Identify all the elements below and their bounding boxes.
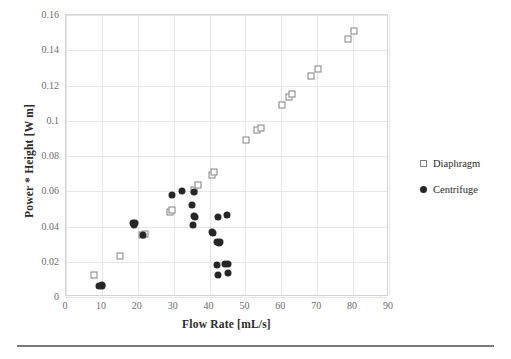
gridline-vertical [389,15,390,295]
x-tick-label: 90 [383,300,393,311]
data-point-diaphragm [308,73,315,80]
gridline-vertical [138,15,139,295]
x-tick-label: 80 [347,300,357,311]
data-point-centrifuge [217,239,224,246]
gridline-horizontal [66,86,387,87]
data-point-diaphragm [90,272,97,279]
data-point-centrifuge [224,270,231,277]
footer-divider [17,345,494,347]
data-point-diaphragm [314,66,321,73]
gridline-vertical [66,15,67,295]
gridline-vertical [245,15,246,295]
gridline-horizontal [66,156,387,157]
filled-circle-icon [420,186,432,193]
open-square-icon [420,160,432,167]
x-tick-label: 20 [132,300,142,311]
data-point-centrifuge [132,219,139,226]
gridline-vertical [317,15,318,295]
data-point-diaphragm [243,137,250,144]
x-axis-title: Flow Rate [mL/s] [65,318,388,330]
data-point-diaphragm [289,91,296,98]
plot-area [65,14,388,296]
scatter-chart-figure: 00.020.040.060.080.10.120.140.16 0102030… [0,0,511,359]
x-tick-label: 10 [96,300,106,311]
data-point-diaphragm [116,253,123,260]
data-point-centrifuge [210,230,217,237]
data-point-centrifuge [214,271,221,278]
x-tick-label: 0 [63,300,68,311]
data-point-diaphragm [345,36,352,43]
gridline-horizontal [66,15,387,16]
x-tick-label: 60 [275,300,285,311]
y-tick-label: 0.16 [0,9,59,20]
x-tick-label: 30 [168,300,178,311]
data-point-centrifuge [178,187,185,194]
y-tick-label: 0 [0,291,59,302]
gridline-vertical [353,15,354,295]
gridline-horizontal [66,227,387,228]
y-axis-title: Power * Height [W m] [23,46,35,276]
data-point-centrifuge [168,192,175,199]
data-point-diaphragm [279,101,286,108]
x-tick-label: 40 [204,300,214,311]
data-point-diaphragm [195,181,202,188]
data-point-diaphragm [257,124,264,131]
data-point-centrifuge [214,214,221,221]
gridline-vertical [102,15,103,295]
data-point-centrifuge [192,214,199,221]
gridline-horizontal [66,297,387,298]
data-point-centrifuge [223,212,230,219]
chart-legend: Diaphragm Centrifuge [420,158,480,210]
data-point-diaphragm [351,28,358,35]
gridline-vertical [174,15,175,295]
gridline-vertical [210,15,211,295]
data-point-centrifuge [190,188,197,195]
data-point-centrifuge [225,260,232,267]
gridline-horizontal [66,50,387,51]
data-point-diaphragm [211,168,218,175]
legend-item-diaphragm[interactable]: Diaphragm [420,158,480,169]
data-point-centrifuge [189,222,196,229]
gridline-horizontal [66,121,387,122]
data-point-diaphragm [168,207,175,214]
data-point-centrifuge [99,282,106,289]
legend-label-diaphragm: Diaphragm [433,158,480,169]
x-tick-label: 50 [239,300,249,311]
gridline-horizontal [66,191,387,192]
data-point-centrifuge [140,231,147,238]
legend-label-centrifuge: Centrifuge [433,184,478,195]
data-point-centrifuge [213,261,220,268]
gridline-vertical [281,15,282,295]
x-tick-label: 70 [311,300,321,311]
legend-item-centrifuge[interactable]: Centrifuge [420,184,480,195]
data-point-centrifuge [188,201,195,208]
